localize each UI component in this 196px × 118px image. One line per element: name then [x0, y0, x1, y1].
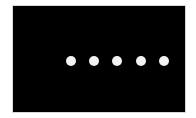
display-screen: [12, 5, 186, 113]
loading-dot-icon: [159, 56, 169, 66]
loading-dot-icon: [89, 56, 99, 66]
loading-dot-icon: [66, 56, 76, 66]
loading-dot-icon: [112, 56, 122, 66]
loading-dot-icon: [136, 56, 146, 66]
